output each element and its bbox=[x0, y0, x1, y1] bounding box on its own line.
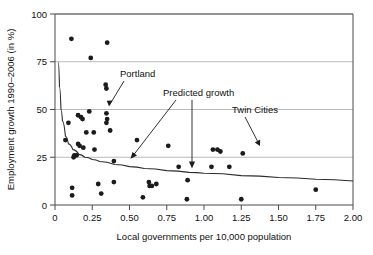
scatter-point bbox=[104, 120, 109, 125]
x-tick-label-100: 1.00 bbox=[195, 212, 214, 223]
scatter-point bbox=[87, 109, 92, 114]
y-tick-labels: 100 75 50 25 0 bbox=[31, 9, 47, 211]
scatter-point bbox=[104, 111, 109, 116]
y-tick-label-75: 75 bbox=[36, 56, 47, 67]
scatter-point bbox=[88, 56, 93, 61]
scatter-point bbox=[99, 191, 104, 196]
x-tick-label-050: 0.50 bbox=[120, 212, 139, 223]
x-tick-labels: 0 0.25 0.50 0.75 1.00 1.25 1.50 1.75 2.0… bbox=[52, 212, 362, 223]
scatter-point bbox=[108, 128, 113, 133]
scatter-point bbox=[154, 182, 159, 187]
x-tick-marks bbox=[55, 205, 353, 210]
scatter-point bbox=[80, 117, 85, 122]
scatter-point bbox=[184, 197, 189, 202]
scatter-point bbox=[81, 145, 86, 150]
scatter-point bbox=[176, 164, 181, 169]
y-tick-marks bbox=[50, 14, 55, 205]
scatter-point bbox=[71, 155, 76, 160]
scatter-point bbox=[70, 193, 75, 198]
annotation-label-predicted-growth: Predicted growth bbox=[163, 87, 234, 98]
scatter-point bbox=[185, 178, 190, 183]
y-tick-label-25: 25 bbox=[36, 152, 47, 163]
scatter-point bbox=[63, 138, 68, 143]
x-tick-label-0: 0 bbox=[52, 212, 57, 223]
y-tick-label-50: 50 bbox=[36, 104, 47, 115]
scatter-point bbox=[111, 159, 116, 164]
chart-figure: 100 75 50 25 0 0 0.25 0.50 0.75 1.00 1.2… bbox=[0, 0, 373, 255]
scatter-point bbox=[92, 147, 97, 152]
y-axis-title: Employment growth 1990–2006 (in %) bbox=[5, 29, 16, 191]
x-axis-title: Local governments per 10,000 population bbox=[117, 231, 292, 242]
y-tick-label-100: 100 bbox=[31, 9, 47, 20]
x-tick-label-200: 2.00 bbox=[344, 212, 363, 223]
scatter-plot-svg: 100 75 50 25 0 0 0.25 0.50 0.75 1.00 1.2… bbox=[0, 0, 373, 255]
scatter-point bbox=[111, 180, 116, 185]
scatter-point bbox=[96, 182, 101, 187]
scatter-point bbox=[69, 36, 74, 41]
scatter-point bbox=[84, 130, 89, 135]
scatter-point bbox=[166, 143, 171, 148]
x-tick-label-125: 1.25 bbox=[232, 212, 251, 223]
scatter-point bbox=[141, 195, 146, 200]
scatter-point bbox=[91, 130, 96, 135]
x-tick-label-025: 0.25 bbox=[83, 212, 102, 223]
scatter-point bbox=[149, 184, 154, 189]
scatter-point bbox=[135, 138, 140, 143]
scatter-point bbox=[105, 40, 110, 45]
scatter-point bbox=[239, 197, 244, 202]
x-tick-label-075: 0.75 bbox=[158, 212, 177, 223]
scatter-point bbox=[313, 187, 318, 192]
scatter-point bbox=[209, 164, 214, 169]
scatter-point bbox=[66, 120, 71, 125]
scatter-point bbox=[240, 151, 245, 156]
annotation-label-portland: Portland bbox=[120, 68, 155, 79]
x-tick-label-150: 1.50 bbox=[269, 212, 288, 223]
scatter-point bbox=[227, 164, 232, 169]
scatter-point bbox=[218, 149, 223, 154]
scatter-point bbox=[211, 147, 216, 152]
y-tick-label-0: 0 bbox=[42, 200, 47, 211]
annotation-label-twin-cities: Twin Cities bbox=[232, 104, 278, 115]
scatter-point bbox=[104, 86, 109, 91]
x-tick-label-175: 1.75 bbox=[307, 212, 326, 223]
scatter-point bbox=[70, 185, 75, 190]
